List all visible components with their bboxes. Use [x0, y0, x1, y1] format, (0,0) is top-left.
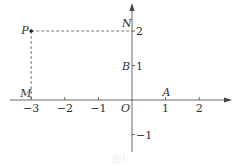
point-label-B: B [121, 60, 130, 73]
x-tick-label: 1 [162, 102, 169, 115]
point-label-A: A [162, 86, 171, 99]
point-label-M: M [19, 87, 32, 100]
y-tick-label: 2 [136, 25, 143, 38]
point-P [29, 29, 33, 33]
x-tick-label: −3 [23, 102, 39, 115]
y-tick-label: −1 [136, 129, 152, 142]
x-tick-label: −2 [57, 102, 73, 115]
x-axis-arrow-icon [224, 98, 232, 103]
y-tick-label: 1 [136, 60, 143, 73]
x-tick-label: 2 [196, 102, 203, 115]
y-axis-arrow-icon [130, 3, 135, 11]
origin-label: O [121, 102, 130, 115]
coordinate-diagram: −3−2−112−112 PMNAB O 图1 [0, 0, 237, 167]
point-label-N: N [121, 17, 132, 30]
figure-caption: 图1 [112, 154, 127, 164]
point-label-P: P [20, 24, 29, 37]
x-tick-label: −1 [90, 102, 106, 115]
